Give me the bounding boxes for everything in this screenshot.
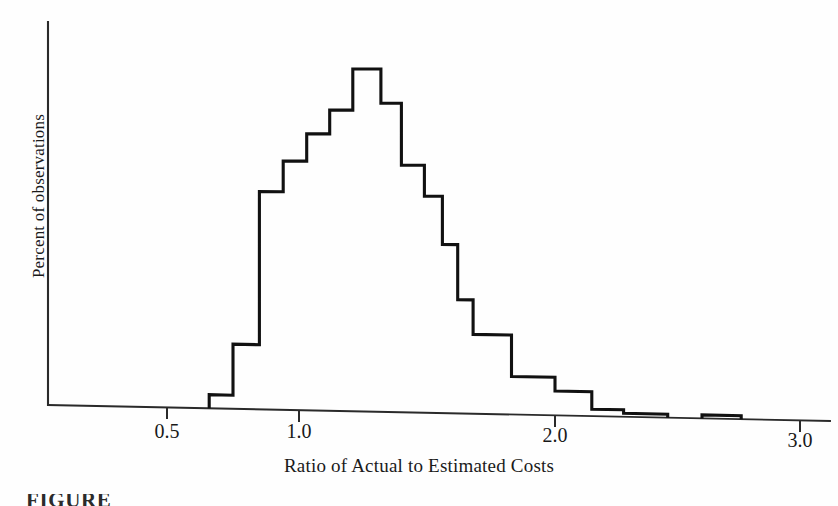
x-axis-title: Ratio of Actual to Estimated Costs <box>0 455 838 477</box>
histogram-outline <box>209 69 741 419</box>
x-tick-label-0: 0.5 <box>132 420 202 443</box>
x-axis-line <box>48 405 830 421</box>
histogram-step-path <box>209 69 668 418</box>
y-axis-title: Percent of observations <box>29 31 49 361</box>
figure-caption: FIGURE <box>26 494 111 506</box>
x-tick-label-2: 2.0 <box>520 424 590 447</box>
x-axis-ticks <box>167 407 800 432</box>
figure-container: Percent of observations 0.5 1.0 2.0 3.0 … <box>0 0 838 506</box>
x-tick-label-1: 1.0 <box>264 420 334 443</box>
histogram-plot <box>0 0 838 506</box>
x-tick-label-3: 3.0 <box>765 429 835 452</box>
